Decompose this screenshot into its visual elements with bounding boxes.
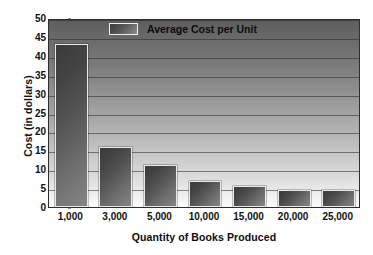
- bar: [189, 181, 222, 207]
- bar: [144, 165, 177, 207]
- x-tick-label: 25,000: [322, 211, 353, 222]
- y-tick-label: 25: [22, 109, 46, 119]
- y-axis-tick-labels: 05101520253035404550: [22, 19, 46, 208]
- y-tick-label: 40: [22, 52, 46, 62]
- bar: [55, 44, 88, 207]
- x-tick-label: 3,000: [102, 211, 127, 222]
- legend: Average Cost per Unit: [109, 23, 257, 35]
- y-tick-label: 20: [22, 127, 46, 137]
- x-axis-title: Quantity of Books Produced: [48, 231, 360, 243]
- y-tick-label: 35: [22, 71, 46, 81]
- x-axis-tick-labels: 1,0003,0005,00010,00015,00020,00025,000: [48, 211, 360, 225]
- bar: [322, 190, 355, 207]
- y-tick-label: 15: [22, 146, 46, 156]
- y-tick-label: 30: [22, 90, 46, 100]
- bar: [233, 186, 266, 207]
- bar: [278, 190, 311, 207]
- bar-chart: Cost (in dollars) 05101520253035404550 A…: [0, 0, 373, 255]
- bar: [99, 147, 132, 207]
- bar-series: [49, 20, 359, 207]
- legend-swatch-icon: [109, 23, 138, 35]
- y-tick-label: 45: [22, 33, 46, 43]
- y-tick-label: 0: [22, 203, 46, 213]
- plot-area: Average Cost per Unit: [48, 19, 360, 208]
- x-tick-label: 5,000: [147, 211, 172, 222]
- legend-label: Average Cost per Unit: [147, 23, 257, 35]
- x-tick-label: 20,000: [278, 211, 309, 222]
- x-tick-label: 15,000: [233, 211, 264, 222]
- y-tick-label: 50: [22, 14, 46, 24]
- y-tick-label: 5: [22, 184, 46, 194]
- x-tick-label: 1,000: [58, 211, 83, 222]
- x-tick-label: 10,000: [189, 211, 220, 222]
- y-tick-label: 10: [22, 165, 46, 175]
